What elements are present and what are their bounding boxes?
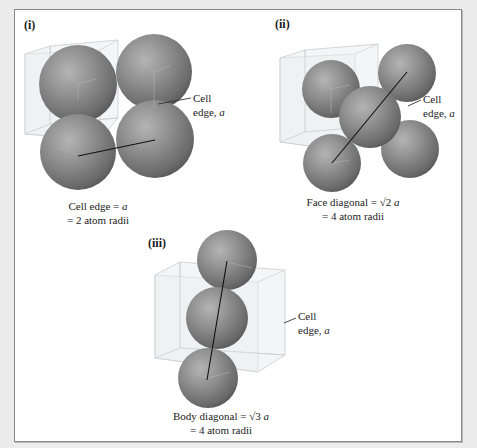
panel-ii: (ii) Cell edge, a Face diagonal = √2 a =… xyxy=(275,17,455,222)
atom-corner xyxy=(197,230,257,290)
cell-edge-label-line2: edge, a xyxy=(423,107,455,119)
caption-iii-line2: = 4 atom radii xyxy=(190,424,252,436)
panel-label-i: (i) xyxy=(24,18,35,32)
panel-i: (i) Cell edge, a Cell edge = a = 2 at xyxy=(24,18,225,226)
cell-edge-label-line1: Cell xyxy=(193,92,211,104)
caption-i-line1: Cell edge = a xyxy=(68,200,128,212)
cell-edge-label-line1: Cell xyxy=(423,93,441,105)
cell-edge-label-line1: Cell xyxy=(298,310,316,322)
atom-corner xyxy=(40,114,116,190)
panel-iii: (iii) Cell edge, a Body diagonal = √3 a … xyxy=(148,230,330,436)
cell-edge-label-line2: edge, a xyxy=(298,324,330,336)
panel-label-iii: (iii) xyxy=(148,236,166,250)
cell-edge-leader xyxy=(284,318,296,323)
panel-label-ii: (ii) xyxy=(275,17,290,31)
caption-ii-line1: Face diagonal = √2 a xyxy=(307,196,400,208)
caption-ii-line2: = 4 atom radii xyxy=(322,210,384,222)
caption-i-line2: = 2 atom radii xyxy=(67,214,129,226)
atom-corner xyxy=(116,100,194,178)
caption-iii-line1: Body diagonal = √3 a xyxy=(173,410,269,422)
unit-cell-diagram: (i) Cell edge, a Cell edge = a = 2 at xyxy=(0,0,477,448)
cell-edge-label-line2: edge, a xyxy=(193,106,225,118)
